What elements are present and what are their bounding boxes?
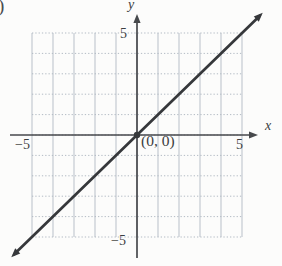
x-min-tick-label: −5	[15, 137, 30, 152]
x-axis-label: x	[265, 118, 271, 133]
x-axis-arrowhead	[249, 131, 258, 138]
y-min-tick-label: −5	[111, 233, 126, 248]
origin-point-label: (0, 0)	[141, 132, 175, 149]
y-axis-label: y	[128, 0, 134, 12]
y-axis-arrowhead	[133, 14, 140, 23]
problem-number-paren: )	[0, 0, 4, 17]
x-max-tick-label: 5	[236, 137, 243, 152]
graph-figure: ) y x 5 −5 −5 5 (0, 0)	[0, 0, 282, 266]
y-max-tick-label: 5	[120, 26, 127, 41]
origin-point-dot	[134, 132, 140, 138]
